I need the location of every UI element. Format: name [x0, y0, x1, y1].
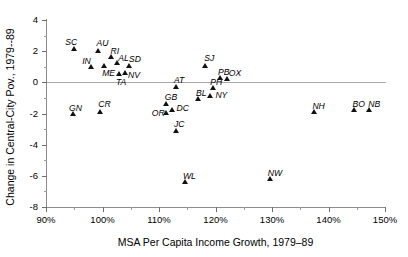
data-point-ME	[101, 63, 107, 68]
y-tick-label: -6	[16, 171, 38, 180]
y-tick-label: -4	[16, 140, 38, 149]
x-tick-90%	[46, 207, 47, 212]
data-point-label-DC: DC	[177, 104, 189, 113]
data-point-label-SD: SD	[129, 55, 141, 64]
data-point-label-TA: TA	[116, 78, 126, 87]
data-point-label-WL: WL	[183, 172, 196, 181]
data-point-label-ME: ME	[102, 69, 115, 78]
scatter-chart-figure: Change in Central-City Pov., 1979--89 MS…	[0, 0, 408, 257]
data-point-label-IN: IN	[82, 57, 91, 66]
x-minor-tick	[300, 207, 301, 210]
data-point-label-BL: BL	[196, 89, 207, 98]
data-point-label-SC: SC	[65, 38, 77, 47]
data-point-label-AT: AT	[174, 76, 184, 85]
y-tick-label: -2	[16, 109, 38, 118]
x-tick-110%	[159, 207, 160, 212]
y-tick-label: 2	[16, 46, 38, 55]
x-minor-tick	[244, 207, 245, 210]
x-tick-label: 120%	[192, 214, 240, 225]
data-point-label-BO: BO	[352, 100, 364, 109]
x-minor-tick	[187, 207, 188, 210]
data-point-TA	[116, 71, 122, 76]
data-point-NY	[207, 93, 213, 98]
x-minor-tick	[131, 207, 132, 210]
data-point-AU	[95, 48, 101, 53]
x-tick-label: 140%	[305, 214, 353, 225]
data-point-label-NV: NV	[128, 71, 140, 80]
data-point-label-GN: GN	[69, 104, 82, 113]
x-tick-150%	[385, 207, 386, 212]
x-tick-140%	[329, 207, 330, 212]
data-point-label-OX: OX	[229, 69, 241, 78]
data-point-label-JC: JC	[174, 120, 185, 129]
data-point-label-NW: NW	[268, 169, 282, 178]
data-point-JC	[173, 128, 179, 133]
x-minor-tick	[74, 207, 75, 210]
x-tick-130%	[272, 207, 273, 212]
y-tick-label: 0	[16, 77, 38, 86]
data-point-label-AL: AL	[118, 54, 129, 63]
data-point-DC	[169, 107, 175, 112]
data-point-label-NH: NH	[312, 102, 324, 111]
x-tick-label: 90%	[22, 214, 70, 225]
x-tick-100%	[103, 207, 104, 212]
x-tick-label: 100%	[79, 214, 127, 225]
data-point-NV	[122, 70, 128, 75]
data-point-label-SJ: SJ	[204, 54, 214, 63]
x-tick-120%	[216, 207, 217, 212]
x-tick-label: 130%	[248, 214, 296, 225]
x-tick-label: 150%	[361, 214, 408, 225]
data-point-label-OR: OR	[152, 109, 165, 118]
data-point-CR	[97, 109, 103, 114]
data-point-SJ	[202, 63, 208, 68]
x-minor-tick	[357, 207, 358, 210]
data-point-label-GB: GB	[165, 93, 177, 102]
y-tick-label: -8	[16, 202, 38, 211]
x-tick-label: 110%	[135, 214, 183, 225]
data-point-label-NY: NY	[215, 91, 227, 100]
data-point-label-AU: AU	[97, 39, 109, 48]
x-axis-title: MSA Per Capita Income Growth, 1979–89	[46, 236, 385, 248]
data-point-label-CR: CR	[98, 100, 110, 109]
data-point-SC	[71, 46, 77, 51]
y-tick-label: 4	[16, 15, 38, 24]
data-point-label-NB: NB	[368, 100, 380, 109]
